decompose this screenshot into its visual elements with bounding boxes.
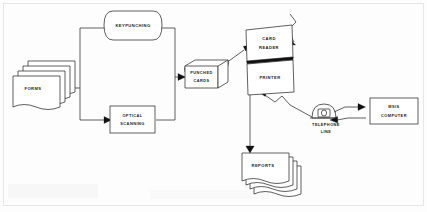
diagram-canvas: FORMS KEYPUNCHING OPTICAL SCANNING PUNCH… bbox=[0, 0, 427, 212]
node-computer-label-2: COMPUTER bbox=[381, 113, 407, 118]
node-telephone-label-1: TELEPHONE bbox=[312, 122, 340, 127]
node-optical-scanning[interactable]: OPTICAL SCANNING bbox=[110, 106, 155, 133]
node-punched-cards-label-2: CARDS bbox=[193, 78, 209, 83]
node-computer-label-1: MSIS bbox=[388, 104, 399, 109]
node-card-reader[interactable]: CARD READER bbox=[246, 25, 293, 62]
edge-forms-optical bbox=[80, 88, 112, 123]
node-optical-label-2: SCANNING bbox=[120, 121, 144, 126]
node-telephone-label-2: LINE bbox=[321, 129, 332, 134]
node-forms[interactable]: FORMS bbox=[13, 61, 75, 110]
scan-smudge bbox=[8, 184, 98, 198]
node-optical-label-1: OPTICAL bbox=[122, 113, 142, 118]
node-forms-label: FORMS bbox=[24, 86, 41, 91]
node-printer-label: PRINTER bbox=[259, 75, 280, 80]
node-keypunching-label: KEYPUNCHING bbox=[115, 23, 150, 28]
node-card-reader-label-2: READER bbox=[259, 45, 279, 50]
edge-keypunching-punchedcards bbox=[161, 28, 186, 80]
node-reports[interactable]: REPORTS bbox=[242, 153, 301, 197]
node-reports-label: REPORTS bbox=[252, 163, 275, 168]
node-printer[interactable]: PRINTER bbox=[247, 60, 294, 95]
scan-smudge-2 bbox=[150, 190, 270, 199]
node-computer[interactable]: MSIS COMPUTER bbox=[370, 98, 418, 124]
node-keypunching[interactable]: KEYPUNCHING bbox=[104, 11, 162, 40]
edge-optical-punchedcards bbox=[156, 77, 175, 120]
node-card-reader-label-1: CARD bbox=[262, 36, 276, 41]
system-flow-diagram: FORMS KEYPUNCHING OPTICAL SCANNING PUNCH… bbox=[0, 0, 427, 212]
edge-printer-reports bbox=[246, 95, 254, 153]
node-punched-cards-label-1: PUNCHED bbox=[190, 70, 212, 75]
node-punched-cards[interactable]: PUNCHED CARDS bbox=[185, 60, 228, 88]
page-frame bbox=[4, 4, 424, 206]
